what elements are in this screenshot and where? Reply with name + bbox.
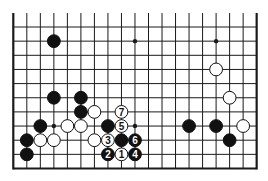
black-stone: [115, 134, 128, 147]
move-number-label: 1: [119, 149, 125, 160]
white-stone: [47, 134, 60, 147]
move-number-label: 2: [105, 149, 111, 160]
black-stone-move-4: 4: [129, 148, 142, 161]
black-stone: [223, 134, 236, 147]
black-stone-move-2: 2: [102, 148, 115, 161]
star-point: [52, 124, 56, 128]
white-stone: [223, 91, 236, 104]
black-stone-move-6: 6: [129, 134, 142, 147]
go-board: 7536214: [0, 0, 268, 181]
white-stone: [61, 120, 74, 133]
black-stone: [20, 134, 33, 147]
white-stone: [34, 134, 47, 147]
move-number-label: 4: [132, 149, 138, 160]
black-stone: [47, 35, 60, 48]
black-stone: [210, 120, 223, 133]
white-stone: [210, 63, 223, 76]
white-stone-move-5: 5: [115, 120, 128, 133]
white-stone: [75, 120, 88, 133]
white-stone-move-1: 1: [115, 148, 128, 161]
white-stone: [88, 134, 101, 147]
move-number-label: 7: [119, 107, 125, 118]
white-stone-move-7: 7: [115, 106, 128, 119]
white-stone: [237, 120, 250, 133]
white-stone-move-3: 3: [102, 134, 115, 147]
black-stone: [102, 120, 115, 133]
move-number-label: 6: [132, 135, 138, 146]
black-stone: [183, 120, 196, 133]
black-stone: [75, 91, 88, 104]
black-stone: [34, 120, 47, 133]
move-number-label: 3: [105, 135, 111, 146]
star-point: [133, 39, 137, 43]
move-number-label: 5: [119, 121, 125, 132]
star-point: [214, 39, 218, 43]
black-stone: [20, 148, 33, 161]
black-stone: [47, 91, 60, 104]
star-point: [133, 124, 137, 128]
black-stone: [75, 106, 88, 119]
white-stone: [88, 106, 101, 119]
